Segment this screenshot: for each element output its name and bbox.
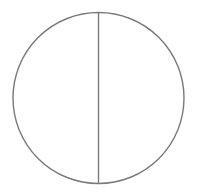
- diagram-canvas: [0, 0, 197, 193]
- diagram-svg: [0, 0, 197, 193]
